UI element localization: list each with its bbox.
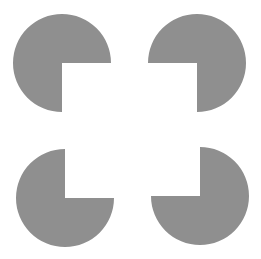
kanizsa-figure [0,0,261,259]
